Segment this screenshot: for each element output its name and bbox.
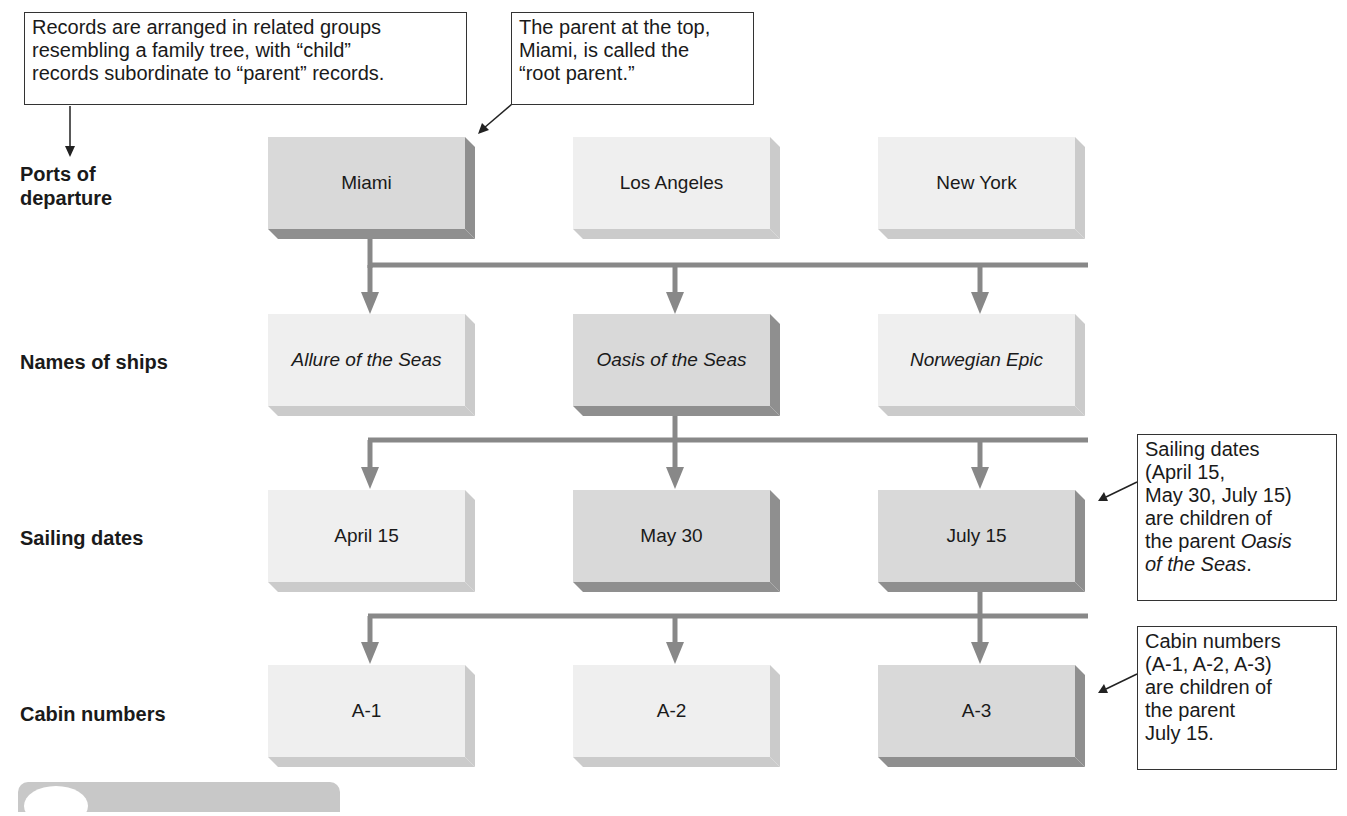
node-label: A-2 [573, 665, 770, 757]
node-port-los-angeles: Los Angeles [573, 137, 770, 229]
row-label-ports: Ports of departure [20, 162, 112, 210]
callout-line: are children of [1145, 676, 1329, 699]
callout-italic-text: of the Seas [1145, 553, 1246, 575]
node-label: A-3 [878, 665, 1075, 757]
callout-cabin-numbers: Cabin numbers (A-1, A-2, A-3) are childr… [1137, 626, 1337, 770]
callout-italic-text: Oasis [1241, 530, 1292, 552]
callout-line: Records are arranged in related groups [32, 16, 459, 39]
node-label: July 15 [878, 490, 1075, 582]
node-label: May 30 [573, 490, 770, 582]
callout-line: the parent Oasis [1145, 530, 1329, 553]
node-port-miami: Miami [268, 137, 465, 229]
callout-line: May 30, July 15) [1145, 484, 1329, 507]
callout-line: (April 15, [1145, 461, 1329, 484]
node-label: Miami [268, 137, 465, 229]
row-label-text: departure [20, 186, 112, 210]
node-cabin-a1: A-1 [268, 665, 465, 757]
callout-line: the parent [1145, 699, 1329, 722]
callout-line: The parent at the top, [519, 16, 746, 39]
callout-line: (A-1, A-2, A-3) [1145, 653, 1329, 676]
callout-sailing-dates: Sailing dates (April 15, May 30, July 15… [1137, 434, 1337, 601]
callout-line: Cabin numbers [1145, 630, 1329, 653]
node-label: Los Angeles [573, 137, 770, 229]
callout-text: . [1246, 553, 1252, 575]
node-label: New York [878, 137, 1075, 229]
node-label: A-1 [268, 665, 465, 757]
callout-line: resembling a family tree, with “child” [32, 39, 459, 62]
node-cabin-a2: A-2 [573, 665, 770, 757]
node-ship-allure: Allure of the Seas [268, 314, 465, 406]
callout-line: Sailing dates [1145, 438, 1329, 461]
node-port-new-york: New York [878, 137, 1075, 229]
node-date-april-15: April 15 [268, 490, 465, 582]
callout-line: of the Seas. [1145, 553, 1329, 576]
node-date-july-15: July 15 [878, 490, 1075, 582]
node-label: Allure of the Seas [268, 314, 465, 406]
callout-root-parent: The parent at the top, Miami, is called … [511, 12, 754, 105]
callout-line: “root parent.” [519, 62, 746, 85]
node-date-may-30: May 30 [573, 490, 770, 582]
node-ship-oasis: Oasis of the Seas [573, 314, 770, 406]
callout-line: are children of [1145, 507, 1329, 530]
callout-hierarchy-description: Records are arranged in related groups r… [24, 12, 467, 105]
callout-line: July 15. [1145, 722, 1329, 745]
callout-text: the parent [1145, 530, 1241, 552]
node-label: Oasis of the Seas [573, 314, 770, 406]
row-label-ships: Names of ships [20, 350, 168, 374]
row-label-cabins: Cabin numbers [20, 702, 166, 726]
node-label: Norwegian Epic [878, 314, 1075, 406]
callout-line: records subordinate to “parent” records. [32, 62, 459, 85]
row-label-dates: Sailing dates [20, 526, 143, 550]
callout-line: Miami, is called the [519, 39, 746, 62]
node-ship-norwegian-epic: Norwegian Epic [878, 314, 1075, 406]
node-label: April 15 [268, 490, 465, 582]
row-label-text: Ports of [20, 162, 112, 186]
node-cabin-a3: A-3 [878, 665, 1075, 757]
